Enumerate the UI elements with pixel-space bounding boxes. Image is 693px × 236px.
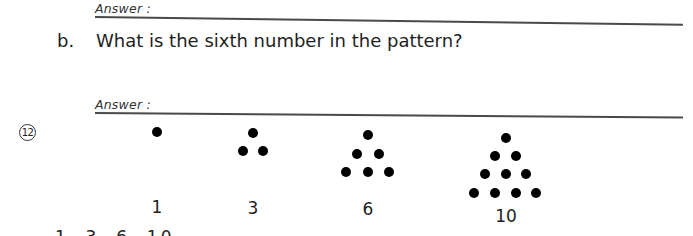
answer-line-a[interactable] [95,16,683,25]
dot [341,167,351,177]
dot [501,133,511,143]
figure-label-3: 6 [363,199,374,219]
dot [501,169,511,179]
answer-label-a: Answer : [95,1,151,16]
figure-label-1: 1 [152,197,163,217]
question-text: What is the sixth number in the pattern? [96,30,463,51]
question-number-12: 12 [19,124,36,141]
dot [248,128,258,138]
answer-line-b[interactable] [95,112,683,118]
dot [374,149,384,159]
dot [490,151,500,161]
dot [363,167,373,177]
dot [490,188,500,198]
figure-label-2: 3 [248,198,259,218]
dot [352,149,362,159]
dot [511,151,521,161]
dot [363,130,373,140]
dot [238,146,248,156]
dot [521,169,531,179]
dot [511,188,521,198]
dot [258,146,268,156]
dot [469,188,479,198]
figure-label-4: 10 [495,206,517,226]
dot [531,188,541,198]
part-b-label: b. [57,30,74,51]
dot [152,127,162,137]
dot [480,169,490,179]
dot [384,167,394,177]
answer-label-b: Answer : [95,97,151,112]
sequence-text: 1, 3, 6, 10 [55,227,175,236]
